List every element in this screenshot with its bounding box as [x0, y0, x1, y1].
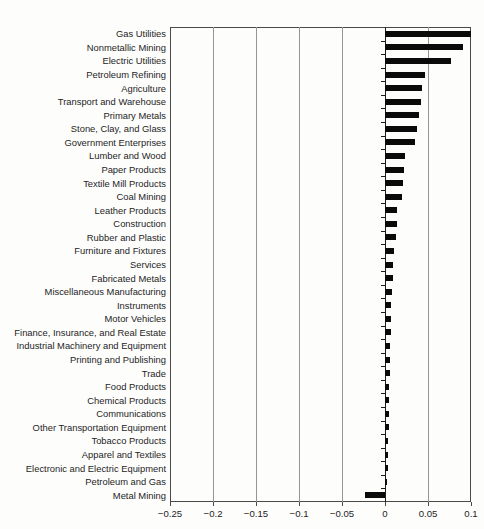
- category-tick: [381, 298, 385, 299]
- bar: [385, 302, 391, 308]
- bar: [385, 72, 425, 78]
- category-label: Motor Vehicles: [105, 313, 167, 324]
- category-label: Stone, Clay, and Glass: [71, 123, 166, 134]
- bar: [385, 452, 388, 458]
- bar: [385, 44, 463, 50]
- bar: [385, 384, 389, 390]
- bar: [365, 492, 385, 498]
- bar: [385, 397, 389, 403]
- x-axis-tick: [256, 502, 257, 506]
- category-tick: [381, 393, 385, 394]
- x-tick-label: −0.1: [290, 508, 309, 519]
- bar: [385, 289, 392, 295]
- category-label: Food Products: [105, 381, 166, 392]
- category-tick: [381, 366, 385, 367]
- x-axis-tick: [170, 502, 171, 506]
- x-tick-label: −0.15: [244, 508, 268, 519]
- bar: [385, 479, 387, 485]
- x-tick-label: 0.05: [419, 508, 438, 519]
- category-tick: [381, 258, 385, 259]
- x-gridline: [256, 27, 257, 502]
- category-tick: [381, 271, 385, 272]
- x-gridline: [299, 27, 300, 502]
- category-label: Metal Mining: [113, 490, 166, 501]
- category-tick: [381, 176, 385, 177]
- category-label: Construction: [113, 218, 166, 229]
- bar: [385, 180, 403, 186]
- x-tick-label: −0.2: [204, 508, 223, 519]
- bar: [385, 85, 422, 91]
- bar: [385, 31, 471, 37]
- category-label: Miscellaneous Manufacturing: [45, 286, 166, 297]
- bar: [385, 370, 390, 376]
- category-tick: [381, 488, 385, 489]
- category-label: Services: [130, 259, 166, 270]
- bar: [385, 126, 417, 132]
- category-label: Petroleum Refining: [86, 69, 166, 80]
- category-tick: [381, 149, 385, 150]
- x-axis-tick: [428, 502, 429, 506]
- category-tick: [381, 190, 385, 191]
- category-tick: [381, 54, 385, 55]
- category-label: Coal Mining: [116, 191, 166, 202]
- x-axis-tick: [213, 502, 214, 506]
- category-tick: [381, 203, 385, 204]
- bar: [385, 207, 397, 213]
- category-tick: [381, 41, 385, 42]
- category-label: Primary Metals: [103, 110, 166, 121]
- bar: [385, 99, 421, 105]
- category-label: Textile Mill Products: [83, 178, 166, 189]
- category-tick: [381, 339, 385, 340]
- category-label: Finance, Insurance, and Real Estate: [14, 327, 166, 338]
- category-tick: [381, 81, 385, 82]
- category-label: Rubber and Plastic: [87, 232, 166, 243]
- category-label: Fabricated Metals: [91, 273, 166, 284]
- bar: [385, 248, 394, 254]
- category-label: Nonmetallic Mining: [87, 42, 166, 53]
- category-label: Tobacco Products: [91, 435, 166, 446]
- category-label: Lumber and Wood: [89, 150, 166, 161]
- x-axis-tick: [385, 502, 386, 506]
- category-label: Other Transportation Equipment: [33, 422, 166, 433]
- x-gridline: [342, 27, 343, 502]
- category-tick: [381, 326, 385, 327]
- bar: [385, 58, 451, 64]
- category-tick: [381, 163, 385, 164]
- x-axis-tick: [299, 502, 300, 506]
- category-label: Furniture and Fixtures: [74, 245, 166, 256]
- category-label: Agriculture: [121, 83, 166, 94]
- industry-horizontal-bar-chart: −0.25−0.2−0.15−0.1−0.0500.050.1Gas Utili…: [0, 0, 484, 529]
- category-label: Apparel and Textiles: [82, 449, 166, 460]
- category-label: Paper Products: [101, 164, 166, 175]
- category-label: Gas Utilities: [116, 28, 166, 39]
- bar: [385, 343, 390, 349]
- x-tick-label: 0: [382, 508, 387, 519]
- category-tick: [381, 217, 385, 218]
- category-label: Printing and Publishing: [70, 354, 166, 365]
- category-tick: [381, 380, 385, 381]
- category-tick: [381, 285, 385, 286]
- category-tick: [381, 421, 385, 422]
- category-label: Electric Utilities: [102, 55, 166, 66]
- bar: [385, 411, 389, 417]
- bar: [385, 153, 405, 159]
- category-label: Instruments: [117, 300, 166, 311]
- x-tick-label: −0.05: [330, 508, 354, 519]
- category-label: Communications: [96, 408, 166, 419]
- bar: [385, 139, 415, 145]
- category-tick: [381, 312, 385, 313]
- bar: [385, 424, 389, 430]
- category-label: Leather Products: [95, 205, 166, 216]
- bar: [385, 262, 393, 268]
- category-tick: [381, 407, 385, 408]
- plot-area-frame: [170, 27, 471, 502]
- figure-page: −0.25−0.2−0.15−0.1−0.0500.050.1Gas Utili…: [0, 0, 484, 529]
- category-tick: [381, 448, 385, 449]
- category-label: Transport and Warehouse: [58, 96, 166, 107]
- category-tick: [381, 108, 385, 109]
- bar: [385, 167, 404, 173]
- bar: [385, 316, 391, 322]
- category-label: Electronic and Electric Equipment: [26, 463, 166, 474]
- bar: [385, 357, 390, 363]
- category-label: Petroleum and Gas: [85, 476, 166, 487]
